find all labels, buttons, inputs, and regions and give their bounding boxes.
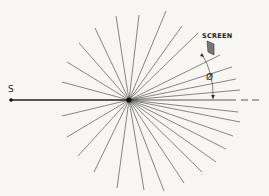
screen	[207, 41, 214, 55]
arrowhead-bottom	[211, 95, 215, 99]
source-label: S	[8, 84, 14, 94]
source-point	[9, 98, 13, 102]
ray	[62, 82, 129, 100]
ray	[129, 100, 144, 190]
ray	[117, 100, 129, 188]
ray	[62, 100, 129, 116]
ray	[129, 100, 226, 149]
ray	[129, 33, 198, 100]
ray	[129, 100, 202, 172]
arrowhead-top	[200, 53, 204, 57]
diagram-canvas	[0, 0, 269, 196]
ray	[129, 100, 216, 162]
scattering-diagram: S SCREEN Ø	[0, 0, 269, 196]
angle-label: Ø	[206, 72, 213, 82]
screen-label: SCREEN	[202, 32, 233, 40]
scattering-center	[126, 97, 131, 102]
ray	[129, 79, 236, 100]
ray	[78, 100, 129, 156]
ray	[129, 100, 240, 122]
